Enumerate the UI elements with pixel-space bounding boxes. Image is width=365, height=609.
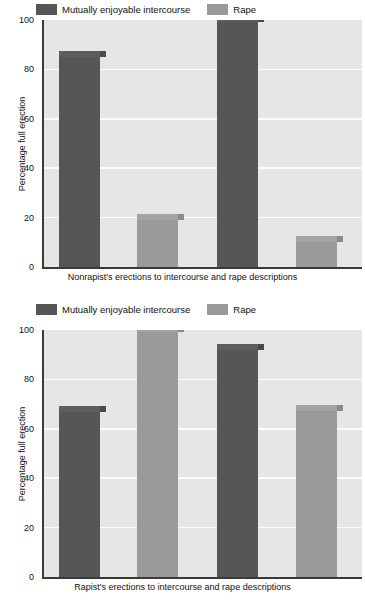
- bar-group-rapist: [42, 330, 362, 577]
- y-tick-80: 80: [24, 375, 34, 384]
- y-tick-100: 100: [19, 16, 34, 25]
- bar-corner-face: [258, 344, 264, 350]
- bar-corner-face: [337, 405, 343, 411]
- y-tick-0: 0: [29, 263, 34, 272]
- bar-front-face: [59, 412, 100, 577]
- y-tick-60: 60: [24, 114, 34, 123]
- x-axis-line-rapist: [42, 577, 362, 579]
- bar-mutually-enjoyable-intercourse-2: [217, 22, 258, 267]
- bar-rape-2: [296, 242, 337, 267]
- y-axis-line-rapist: [42, 330, 44, 578]
- y-tick-60: 60: [24, 424, 34, 433]
- chart-rapist: Mutually enjoyable intercourse Rape Perc…: [0, 300, 365, 609]
- bar-front-face: [137, 332, 178, 577]
- bar-mutually-enjoyable-intercourse-1: [59, 412, 100, 577]
- plot-area-nonrapist: Percentage full erection 100 80 60 40 20…: [0, 0, 365, 300]
- y-tick-20: 20: [24, 213, 34, 222]
- bar-rape-2: [296, 411, 337, 577]
- y-axis-ticks-nonrapist: 100 80 60 40 20 0: [0, 20, 38, 267]
- bar-corner-face: [100, 406, 106, 412]
- bar-front-face: [296, 242, 337, 267]
- bar-group-nonrapist: [42, 20, 362, 267]
- y-tick-20: 20: [24, 523, 34, 532]
- bar-front-face: [59, 57, 100, 267]
- chart-nonrapist: Mutually enjoyable intercourse Rape Perc…: [0, 0, 365, 300]
- x-axis-line-nonrapist: [42, 267, 362, 269]
- plot-panel-nonrapist: [42, 20, 362, 267]
- bar-front-face: [217, 22, 258, 267]
- y-tick-40: 40: [24, 164, 34, 173]
- chart-caption-rapist: Rapist's erections to intercourse and ra…: [0, 582, 365, 592]
- bar-mutually-enjoyable-intercourse-2: [217, 350, 258, 577]
- y-tick-80: 80: [24, 65, 34, 74]
- plot-area-rapist: Percentage full erection 100 80 60 40 20…: [0, 300, 365, 609]
- bar-corner-face: [178, 214, 184, 220]
- bar-corner-face: [178, 330, 184, 332]
- bar-corner-face: [100, 51, 106, 57]
- bar-front-face: [137, 220, 178, 267]
- bar-front-face: [296, 411, 337, 577]
- plot-panel-rapist: [42, 330, 362, 577]
- bar-rape-1: [137, 220, 178, 267]
- y-axis-ticks-rapist: 100 80 60 40 20 0: [0, 330, 38, 577]
- y-axis-line-nonrapist: [42, 20, 44, 268]
- bar-mutually-enjoyable-intercourse-1: [59, 57, 100, 267]
- y-tick-40: 40: [24, 474, 34, 483]
- bar-corner-face: [337, 236, 343, 242]
- bar-rape-1: [137, 332, 178, 577]
- y-tick-0: 0: [29, 573, 34, 582]
- y-tick-100: 100: [19, 326, 34, 335]
- bar-front-face: [217, 350, 258, 577]
- chart-caption-nonrapist: Nonrapist's erections to intercourse and…: [0, 272, 365, 282]
- bar-corner-face: [258, 20, 264, 22]
